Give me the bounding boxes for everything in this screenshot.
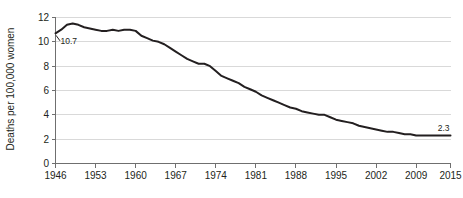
x-axis-tick-label: 1967	[165, 170, 188, 181]
gridlines	[56, 18, 451, 140]
y-axis-tick-label: 8	[43, 61, 49, 72]
chart-container: 024681012 194619531960196719741981198819…	[0, 0, 463, 198]
y-axis-tick-label: 4	[43, 109, 49, 120]
y-axis-tick-label: 2	[43, 134, 49, 145]
line-chart: 024681012 194619531960196719741981198819…	[0, 0, 463, 198]
x-axis-tick-label: 1953	[84, 170, 107, 181]
x-axis-tick-label: 2015	[439, 170, 462, 181]
y-axis-tick-label: 6	[43, 85, 49, 96]
x-axis-tick-label: 1981	[245, 170, 268, 181]
x-axis-tick-label: 1974	[205, 170, 228, 181]
annotation-leader	[56, 35, 60, 41]
y-axis-tick-label: 10	[38, 36, 50, 47]
data-annotations: 10.72.3	[56, 35, 450, 132]
x-axis: 1946195319601967197419811988199520022009…	[44, 164, 462, 181]
annotation-label-end: 2.3	[438, 123, 450, 133]
y-axis-tick-label: 12	[38, 12, 50, 23]
x-axis-tick-label: 1988	[285, 170, 308, 181]
annotation-label-start: 10.7	[61, 36, 78, 46]
y-axis: 024681012	[38, 12, 56, 169]
x-axis-tick-label: 1946	[44, 170, 67, 181]
x-axis-tick-label: 1960	[125, 170, 148, 181]
y-axis-title: Deaths per 100,000 women	[5, 28, 16, 151]
data-series	[56, 24, 451, 136]
series-line	[56, 24, 451, 136]
y-axis-tick-label: 0	[43, 158, 49, 169]
x-axis-tick-label: 2009	[405, 170, 428, 181]
x-axis-tick-label: 1995	[325, 170, 348, 181]
x-axis-tick-label: 2002	[365, 170, 388, 181]
